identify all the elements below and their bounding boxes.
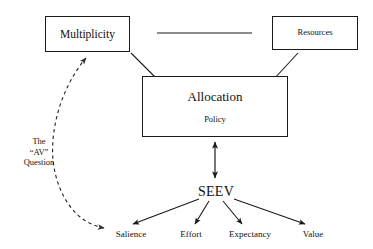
annotation-av-question-line-2: “AV” bbox=[8, 147, 70, 158]
diagram-canvas: Multiplicity Resources Allocation Policy… bbox=[0, 0, 373, 249]
node-multiplicity-label: Multiplicity bbox=[60, 28, 115, 41]
node-resources-label: Resources bbox=[298, 28, 333, 37]
annotation-av-question: The “AV” Question bbox=[8, 136, 70, 168]
outcome-label-value: Value bbox=[294, 229, 332, 239]
connector-seev-effort bbox=[195, 201, 209, 224]
node-resources: Resources bbox=[272, 16, 358, 50]
annotation-av-question-line-3: Question bbox=[8, 157, 70, 168]
node-allocation-title: Allocation bbox=[188, 90, 243, 104]
annotation-av-question-line-1: The bbox=[8, 136, 70, 147]
node-multiplicity: Multiplicity bbox=[45, 16, 130, 52]
connector-seev-value bbox=[234, 199, 305, 224]
node-allocation-subtitle: Policy bbox=[204, 115, 226, 124]
node-allocation-policy: Allocation Policy bbox=[142, 76, 288, 137]
outcome-label-effort: Effort bbox=[172, 229, 210, 239]
node-seev-label: SEEV bbox=[186, 183, 246, 201]
connector-seev-expectancy bbox=[223, 201, 242, 224]
outcome-label-salience: Salience bbox=[108, 229, 154, 239]
outcome-label-expectancy: Expectancy bbox=[222, 229, 278, 239]
connector-seev-salience bbox=[133, 199, 199, 224]
